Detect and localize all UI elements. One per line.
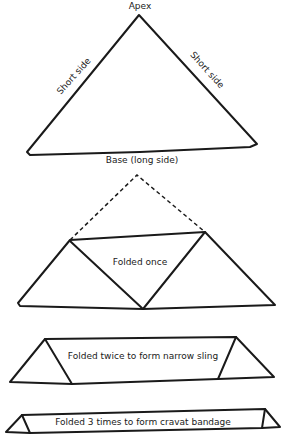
figure-cravat-bandage: Folded 3 times to form cravat bandage [6,409,280,433]
figure-folded-once: Folded once [18,175,275,309]
left-short-side-label: Short side [55,55,93,96]
folded-flap [70,232,205,309]
base-label: Base (long side) [106,155,179,165]
narrow-sling-right-fold [218,337,236,379]
original-apex-dashed-outline [70,175,205,240]
apex-label: Apex [129,1,152,11]
figure-open-triangle: Apex Short side Short side Base (long si… [27,1,257,165]
triangular-bandage-diagram: Apex Short side Short side Base (long si… [0,0,284,442]
cravat-right-fold [262,409,265,428]
right-short-side-label: Short side [188,50,226,91]
folded-once-outline [18,232,275,309]
cravat-label: Folded 3 times to form cravat bandage [55,417,231,427]
narrow-sling-label: Folded twice to form narrow sling [68,351,218,361]
cravat-left-fold [22,415,30,433]
narrow-sling-left-fold [45,339,72,384]
folded-once-label: Folded once [113,257,168,267]
figure-narrow-sling: Folded twice to form narrow sling [10,337,274,384]
